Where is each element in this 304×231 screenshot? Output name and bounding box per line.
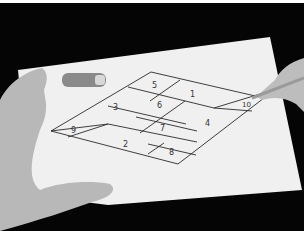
svg-text:2: 2 (123, 140, 128, 149)
svg-text:8: 8 (169, 148, 174, 157)
pen-cap-tip (95, 75, 105, 85)
photo: 5 1 3 6 10 7 4 9 2 8 (0, 0, 304, 231)
scene-drawing: 5 1 3 6 10 7 4 9 2 8 (0, 0, 304, 231)
svg-text:5: 5 (152, 81, 157, 90)
svg-text:10: 10 (242, 101, 251, 109)
svg-text:6: 6 (157, 101, 162, 110)
paper-sheet (18, 37, 302, 205)
svg-text:3: 3 (113, 103, 118, 112)
svg-text:1: 1 (190, 90, 195, 99)
svg-text:9: 9 (71, 126, 76, 135)
svg-text:7: 7 (160, 124, 165, 133)
svg-text:4: 4 (205, 119, 210, 128)
